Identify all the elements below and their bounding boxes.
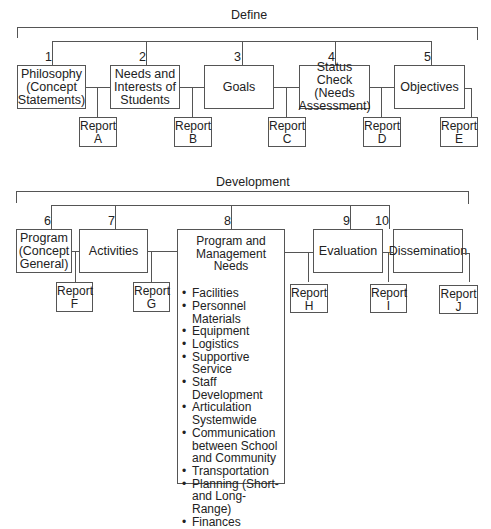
step-box-philosophy: Philosophy(ConceptStatements) — [17, 65, 86, 109]
link-1-2 — [86, 87, 110, 88]
list-item: Finances — [182, 516, 284, 529]
step-number-3: 3 — [221, 50, 241, 64]
step-box-dissemination: Dissemination — [393, 229, 463, 273]
link-7-8 — [148, 251, 177, 252]
connector-6 — [51, 205, 52, 229]
list-item: Communication between School and Communi… — [182, 427, 282, 465]
report-letter: A — [80, 133, 116, 146]
list-item: Facilities — [182, 287, 284, 300]
report-b-stem — [192, 87, 193, 117]
box-line: Evaluation — [319, 245, 377, 258]
list-item: Articulation Systemwide — [182, 401, 262, 426]
report-letter: F — [57, 298, 92, 311]
step-box-program: Program(ConceptGeneral) — [16, 229, 72, 273]
list-item: Planning (Short- and Long-Range) — [182, 478, 284, 516]
report-i-stem — [388, 252, 389, 282]
report-a-stem — [97, 87, 98, 117]
box-line: Assessment) — [298, 100, 370, 113]
report-b: ReportB — [174, 117, 212, 147]
step-number-5: 5 — [411, 50, 431, 64]
define-bracket-top — [17, 27, 478, 28]
list-item: Personnel Materials — [182, 300, 284, 325]
step-box-needs-interests: Needs andInterests ofStudents — [110, 65, 180, 109]
connector-8 — [231, 205, 232, 229]
box-line: Program — [19, 232, 70, 245]
report-letter: B — [175, 133, 211, 146]
report-letter: I — [371, 300, 406, 313]
report-letter: H — [291, 300, 327, 313]
report-g-stem — [151, 251, 152, 282]
define-bracket-right — [477, 27, 478, 40]
report-i: ReportI — [370, 284, 407, 313]
development-bracket-top — [16, 191, 468, 192]
box-line: General) — [19, 258, 70, 271]
box-line: Needs — [178, 260, 284, 273]
box-line: (Concept — [18, 81, 85, 94]
report-e: ReportE — [440, 117, 478, 147]
report-e-stem — [471, 88, 472, 117]
list-item: Supportive Service — [182, 351, 284, 376]
define-title: Define — [231, 8, 267, 22]
box-line: Program and — [178, 235, 284, 248]
report-d-stem — [381, 87, 382, 117]
needs-list: Facilities Personnel Materials Equipment… — [178, 287, 284, 528]
development-branch-line — [51, 205, 389, 206]
list-item: Logistics — [182, 338, 284, 351]
report-c: ReportC — [268, 117, 306, 147]
report-c-stem — [286, 87, 287, 117]
box-line: Goals — [223, 81, 256, 94]
define-bracket-left — [17, 27, 18, 38]
step-box-goals: Goals — [204, 65, 274, 109]
report-letter: E — [441, 133, 477, 146]
connector-5 — [431, 41, 432, 66]
program-management-heading: Program and Management Needs — [178, 230, 284, 273]
report-h-stem — [308, 252, 309, 282]
step-box-evaluation: Evaluation — [313, 229, 383, 273]
connector-1 — [52, 41, 53, 66]
link-4-5 — [370, 87, 394, 88]
step-number-9: 9 — [330, 214, 350, 228]
development-bracket-right — [468, 191, 469, 204]
connector-2 — [146, 41, 147, 66]
list-item: Staff Development — [182, 376, 284, 401]
step-number-2: 2 — [126, 50, 146, 64]
connector-7 — [115, 205, 116, 229]
report-letter: G — [134, 298, 169, 311]
box-line: Dissemination — [389, 245, 468, 258]
step-number-6: 6 — [31, 214, 51, 228]
report-j-stem — [469, 253, 470, 282]
box-line: Statements) — [18, 94, 85, 107]
development-bracket-left — [16, 191, 17, 203]
development-title: Development — [216, 175, 290, 189]
step-number-7: 7 — [95, 214, 115, 228]
box-line: Students — [114, 94, 176, 107]
report-h: ReportH — [290, 284, 328, 313]
box-line: Objectives — [400, 81, 458, 94]
list-item: Transportation — [182, 465, 284, 478]
box-line: Needs and — [114, 68, 176, 81]
box-line: Activities — [89, 245, 138, 258]
report-j: ReportJ — [439, 285, 478, 314]
report-letter: D — [364, 133, 400, 146]
step-box-status-check: Status Check(NeedsAssessment) — [299, 65, 370, 109]
step-box-activities: Activities — [79, 229, 148, 273]
step-number-1: 1 — [32, 50, 52, 64]
connector-9 — [350, 205, 351, 229]
report-f: ReportF — [56, 282, 93, 312]
step-box-program-management-needs: Program and Management Needs Facilities … — [177, 229, 285, 484]
box-line: Interests of — [114, 81, 176, 94]
step-box-objectives: Objectives — [394, 65, 465, 109]
report-d: ReportD — [363, 117, 401, 147]
report-g: ReportG — [133, 282, 170, 312]
box-line: Philosophy — [18, 68, 85, 81]
connector-3 — [242, 41, 243, 66]
step-number-10: 10 — [369, 214, 389, 228]
box-line: (Concept — [19, 245, 70, 258]
box-line: Status Check — [298, 61, 370, 87]
report-f-stem — [75, 251, 76, 282]
step-number-8: 8 — [211, 214, 231, 228]
report-a: ReportA — [79, 117, 117, 147]
connector-10 — [389, 205, 390, 229]
report-letter: J — [440, 301, 477, 314]
report-letter: C — [269, 133, 305, 146]
